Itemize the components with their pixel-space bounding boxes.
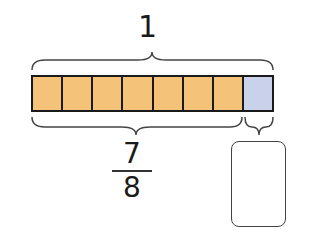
fraction-numerator: 7 [112, 140, 152, 168]
fraction-denominator: 8 [112, 174, 152, 202]
bar-cell-shaded [123, 77, 153, 110]
bottom-brace-unshaded [245, 117, 273, 135]
fraction-bar [31, 75, 274, 112]
bar-cell-shaded [154, 77, 184, 110]
answer-box[interactable] [231, 141, 286, 227]
bar-cell-shaded [184, 77, 214, 110]
bar-cell-shaded [93, 77, 123, 110]
bar-cell-shaded [33, 77, 63, 110]
fraction-label: 7 8 [112, 140, 152, 202]
bottom-brace-shaded [32, 117, 242, 135]
bar-cell-shaded [63, 77, 93, 110]
bar-cell-unshaded [244, 77, 272, 110]
top-brace [32, 52, 273, 70]
bar-cell-shaded [214, 77, 244, 110]
